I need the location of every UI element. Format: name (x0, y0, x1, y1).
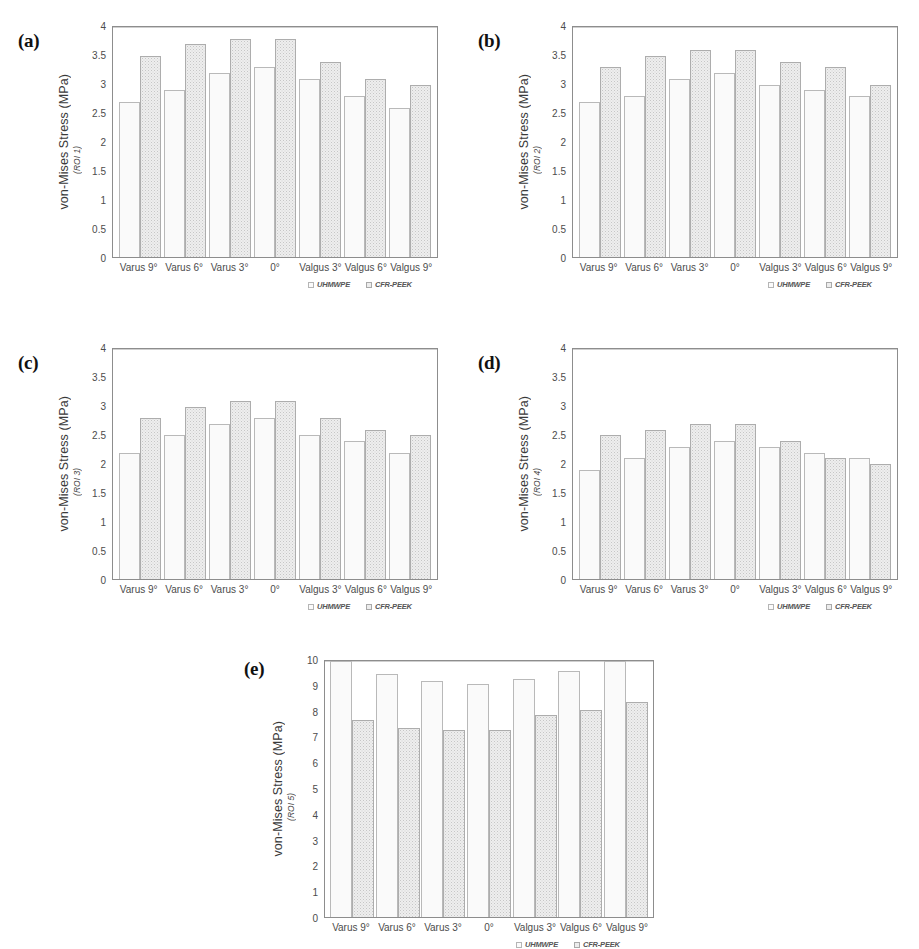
y-tick-label: 0.5 (92, 546, 106, 557)
y-axis-title: von-Mises Stress (MPa) (517, 74, 531, 210)
bar-cfr-peek (185, 44, 206, 257)
legend-label: CFR-PEEK (583, 940, 620, 949)
bar-uhmwpe (804, 453, 825, 580)
bar-group (669, 27, 711, 257)
bar-cfr-peek (870, 85, 891, 258)
bar-group (344, 27, 386, 257)
x-tick-label: Varus 6° (375, 922, 419, 933)
bar-cfr-peek (140, 56, 161, 257)
x-axis-labels: Varus 9°Varus 6°Varus 3°0°Valgus 3°Valgu… (572, 262, 898, 273)
bar-uhmwpe (299, 435, 320, 579)
y-axis-ticks: 00.511.522.533.54 (544, 26, 570, 258)
bar-cfr-peek (780, 441, 801, 579)
legend-item[interactable]: UHMWPE (308, 602, 350, 611)
x-tick-label: Varus 9° (577, 584, 621, 595)
y-tick-label: 1 (560, 195, 566, 206)
legend-swatch-icon (768, 282, 774, 288)
bar-group (759, 349, 801, 579)
bar-group (209, 349, 251, 579)
bar-uhmwpe (164, 90, 185, 257)
y-tick-label: 3 (312, 835, 318, 846)
bar-group (513, 661, 557, 917)
bar-uhmwpe (119, 102, 140, 257)
legend-label: CFR-PEEK (375, 280, 412, 289)
bar-uhmwpe (759, 85, 780, 258)
x-tick-label: 0° (713, 262, 757, 273)
chart-legend: UHMWPECFR-PEEK (308, 602, 412, 611)
x-tick-label: Valgus 6° (804, 262, 848, 273)
legend-item[interactable]: CFR-PEEK (366, 602, 412, 611)
y-tick-label: 1 (100, 195, 106, 206)
y-axis-subtitle-roi: (ROI 3) (72, 468, 82, 496)
chart-panel-b: (b)von-Mises Stress (MPa)(ROI 2)00.511.5… (468, 8, 908, 308)
x-tick-label: Varus 3° (421, 922, 465, 933)
bar-cfr-peek (352, 720, 374, 917)
bar-group (804, 27, 846, 257)
bar-uhmwpe (389, 453, 410, 580)
legend-item[interactable]: UHMWPE (768, 280, 810, 289)
x-tick-label: 0° (253, 584, 297, 595)
bar-group (389, 349, 431, 579)
bar-uhmwpe (624, 96, 645, 257)
bar-uhmwpe (759, 447, 780, 579)
legend-item[interactable]: CFR-PEEK (366, 280, 412, 289)
bar-group (759, 27, 801, 257)
x-tick-label: 0° (253, 262, 297, 273)
y-tick-label: 2 (100, 459, 106, 470)
bar-group (119, 349, 161, 579)
bar-uhmwpe (558, 671, 580, 917)
bar-uhmwpe (467, 684, 489, 917)
bar-cfr-peek (398, 728, 420, 917)
bar-group (849, 27, 891, 257)
bar-group (849, 349, 891, 579)
legend-item[interactable]: UHMWPE (516, 940, 558, 949)
bar-cfr-peek (690, 424, 711, 579)
bar-cfr-peek (825, 67, 846, 257)
legend-item[interactable]: CFR-PEEK (826, 280, 872, 289)
legend-item[interactable]: UHMWPE (308, 280, 350, 289)
y-axis-subtitle-roi: (ROI 1) (72, 146, 82, 174)
bar-group (669, 349, 711, 579)
bar-uhmwpe (164, 435, 185, 579)
y-axis-subtitle-roi: (ROI 4) (532, 468, 542, 496)
y-tick-label: 3 (100, 401, 106, 412)
bar-cfr-peek (535, 715, 557, 917)
bar-groups (573, 349, 897, 579)
bar-group (299, 349, 341, 579)
x-tick-label: Varus 3° (668, 584, 712, 595)
y-tick-label: 2 (560, 137, 566, 148)
x-tick-label: Valgus 6° (344, 584, 388, 595)
y-axis-label-group: von-Mises Stress (MPa)(ROI 5) (266, 660, 300, 918)
x-tick-label: Varus 6° (622, 584, 666, 595)
y-tick-label: 8 (312, 706, 318, 717)
x-tick-label: Valgus 6° (559, 922, 603, 933)
legend-item[interactable]: CFR-PEEK (826, 602, 872, 611)
x-tick-label: Valgus 6° (344, 262, 388, 273)
bar-group (714, 349, 756, 579)
x-tick-label: Valgus 3° (758, 584, 802, 595)
bar-uhmwpe (849, 458, 870, 579)
legend-item[interactable]: UHMWPE (768, 602, 810, 611)
y-axis-label-group: von-Mises Stress (MPa)(ROI 3) (52, 348, 86, 580)
bar-uhmwpe (604, 661, 626, 917)
y-tick-label: 1.5 (92, 488, 106, 499)
bar-group (376, 661, 420, 917)
x-tick-label: Varus 9° (117, 584, 161, 595)
bar-uhmwpe (330, 661, 352, 917)
legend-label: UHMWPE (317, 280, 350, 289)
legend-label: UHMWPE (317, 602, 350, 611)
bar-group (344, 349, 386, 579)
x-axis-labels: Varus 9°Varus 6°Varus 3°0°Valgus 3°Valgu… (324, 922, 654, 933)
legend-label: CFR-PEEK (835, 280, 872, 289)
bar-uhmwpe (714, 441, 735, 579)
bar-uhmwpe (376, 674, 398, 917)
bar-group (119, 27, 161, 257)
y-tick-label: 1 (100, 517, 106, 528)
bar-group (604, 661, 648, 917)
y-axis-ticks: 00.511.522.533.54 (84, 26, 110, 258)
y-tick-label: 6 (312, 758, 318, 769)
legend-item[interactable]: CFR-PEEK (574, 940, 620, 949)
bar-uhmwpe (344, 441, 365, 579)
legend-label: UHMWPE (777, 602, 810, 611)
bar-cfr-peek (600, 67, 621, 257)
